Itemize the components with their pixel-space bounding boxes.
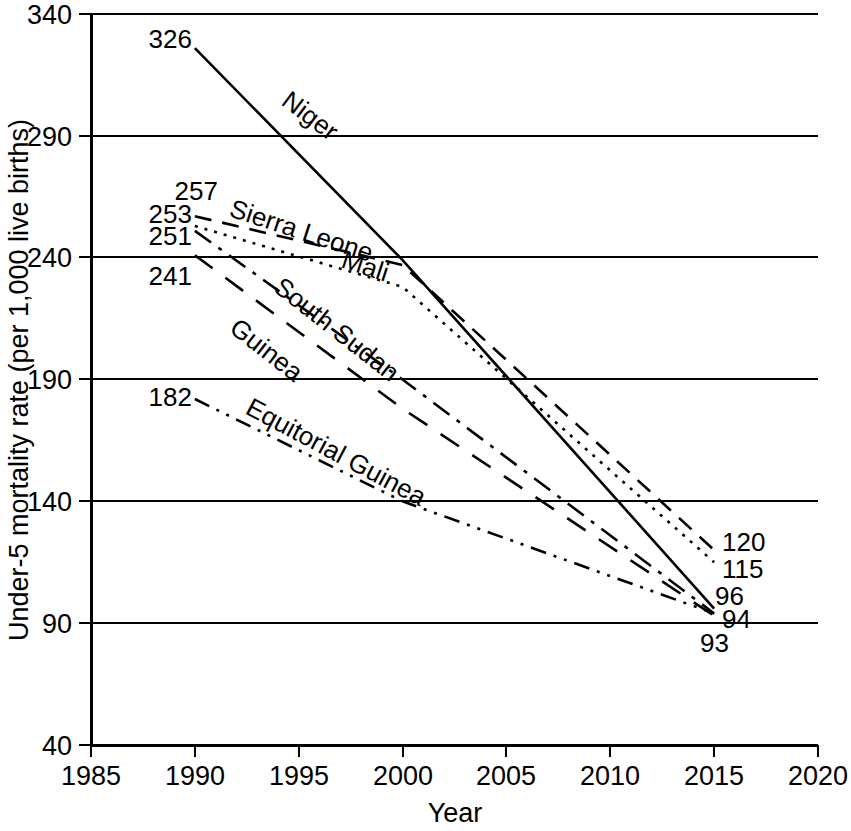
end-value-label-120: 120 (722, 527, 765, 557)
y-tick-label-40: 40 (42, 731, 72, 761)
x-tick-label-2005: 2005 (476, 761, 536, 791)
x-tick-label-1985: 1985 (61, 761, 121, 791)
x-tick-label-2010: 2010 (580, 761, 640, 791)
y-tick-marks (79, 14, 91, 745)
start-value-label-251: 251 (149, 221, 192, 251)
x-axis-title: Year (428, 798, 483, 828)
x-tick-labels: 1985 1990 1995 2000 2005 2010 2015 2020 (61, 761, 848, 791)
series-labels: NigerSierra LeoneMaliSouth SudanGuineaEq… (224, 85, 432, 512)
series-line-niger (195, 48, 714, 608)
y-tick-label-340: 340 (27, 0, 72, 30)
x-tick-label-2015: 2015 (684, 761, 744, 791)
y-axis-title: Under-5 mortality rate (per 1,000 live b… (4, 119, 34, 641)
series-line-guinea (195, 255, 714, 616)
series-line-mali (195, 226, 714, 562)
line-chart: 340 290 240 190 140 90 40 1985 1990 1995… (0, 0, 851, 831)
x-tick-label-1995: 1995 (269, 761, 329, 791)
series-layer (195, 48, 714, 616)
x-tick-label-2000: 2000 (373, 761, 433, 791)
series-label-equitorial-guinea: Equitorial Guinea (241, 392, 432, 512)
series-label-mali: Mali (338, 244, 393, 287)
end-value-label-93: 93 (700, 628, 729, 658)
start-value-label-182: 182 (149, 382, 192, 412)
series-label-guinea: Guinea (224, 312, 309, 388)
x-tick-label-2020: 2020 (788, 761, 848, 791)
chart-figure: 340 290 240 190 140 90 40 1985 1990 1995… (0, 0, 851, 831)
x-tick-label-1990: 1990 (165, 761, 225, 791)
y-tick-label-90: 90 (42, 609, 72, 639)
start-value-label-241: 241 (149, 261, 192, 291)
x-tick-marks (91, 745, 818, 757)
end-value-label-115: 115 (722, 554, 763, 584)
start-value-label-326: 326 (149, 24, 192, 54)
